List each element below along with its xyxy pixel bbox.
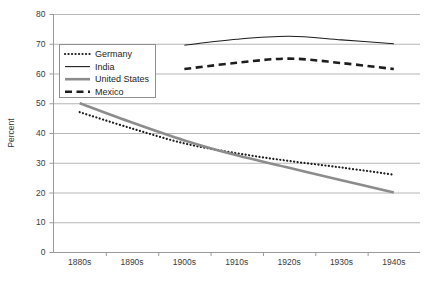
y-tick-label: 20 bbox=[36, 188, 46, 198]
y-tick-label: 60 bbox=[36, 69, 46, 79]
y-tick-label: 30 bbox=[36, 158, 46, 168]
x-tick-label: 1900s bbox=[173, 257, 196, 267]
y-tick-label: 70 bbox=[36, 39, 46, 49]
x-tick-label: 1890s bbox=[120, 257, 143, 267]
legend-label: United States bbox=[95, 74, 150, 84]
y-tick-label: 0 bbox=[41, 247, 46, 257]
x-tick-label: 1910s bbox=[225, 257, 248, 267]
y-axis-tick-labels: 01020304050607080 bbox=[36, 9, 53, 257]
y-axis-title: Percent bbox=[6, 118, 16, 148]
series-line bbox=[80, 103, 394, 192]
line-chart: 01020304050607080 1880s1890s1900s1910s19… bbox=[0, 0, 429, 297]
chart-legend: GermanyIndiaUnited StatesMexico bbox=[60, 45, 156, 98]
legend-label: Germany bbox=[95, 49, 133, 59]
x-tick-label: 1920s bbox=[278, 257, 301, 267]
x-tick-label: 1940s bbox=[382, 257, 405, 267]
series-line bbox=[184, 59, 393, 69]
y-tick-label: 80 bbox=[36, 9, 46, 19]
y-tick-label: 50 bbox=[36, 98, 46, 108]
chart-container: 01020304050607080 1880s1890s1900s1910s19… bbox=[0, 0, 429, 297]
y-tick-label: 40 bbox=[36, 128, 46, 138]
x-tick-label: 1880s bbox=[68, 257, 91, 267]
legend-label: Mexico bbox=[95, 87, 124, 97]
legend-label: India bbox=[95, 62, 115, 72]
x-axis-tick-labels: 1880s1890s1900s1910s1920s1930s1940s bbox=[68, 252, 405, 267]
y-tick-label: 10 bbox=[36, 217, 46, 227]
x-tick-label: 1930s bbox=[330, 257, 353, 267]
